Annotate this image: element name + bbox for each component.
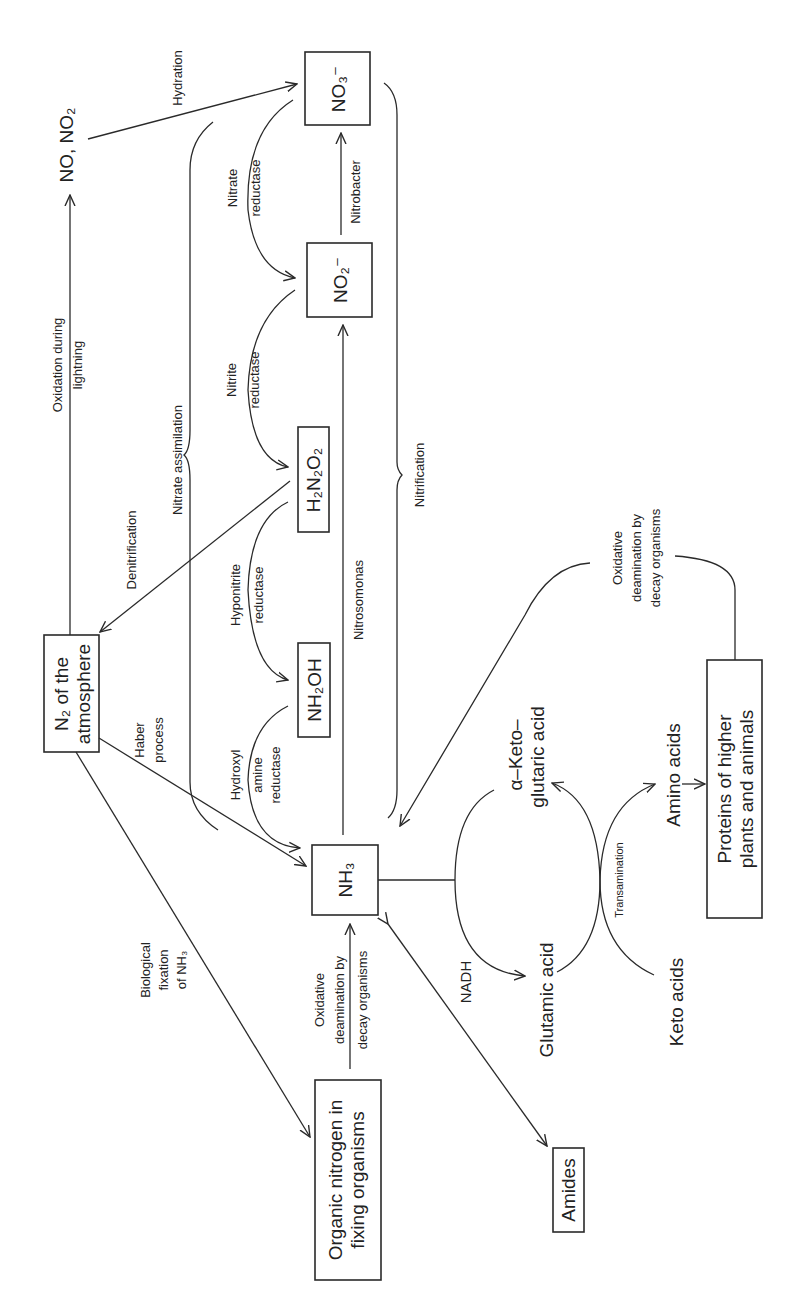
biofix-label-2: fixation <box>156 949 171 990</box>
nitrate-reductase-label-2: reductase <box>248 159 263 216</box>
hydroxyl-label-1: Hydroxyl <box>228 750 243 801</box>
nitrification-label: Nitrification <box>412 443 427 507</box>
amino-acids-label: Amino acids <box>663 723 684 827</box>
denitrification-label: Denitrification <box>124 511 139 590</box>
proteins-label-line1: Proteins of higher <box>714 714 735 864</box>
h2n2o2-label: H₂N₂O₂ <box>303 448 324 512</box>
oxdeam-lower-label-2: deamination by <box>332 955 347 1044</box>
organic-label-line1: Organic nitrogen in <box>325 1100 346 1261</box>
nh3-label: NH₃ <box>335 862 356 897</box>
biofix-label-1: Biological <box>138 942 153 998</box>
transamination-left-curve <box>552 783 600 972</box>
no3-label: NO₃⁻ <box>328 66 349 112</box>
transamination-label: Transamination <box>613 842 625 917</box>
nitrogen-cycle-diagram: NO₃⁻ NO₂⁻ H₂N₂O₂ NH₂OH NH₃ N₂ of the atm… <box>0 0 810 1302</box>
hyponitrite-label-2: reductase <box>251 566 266 623</box>
nitrification-brace <box>384 83 402 818</box>
nitrate-assimilation-brace <box>184 122 218 830</box>
organic-label-line2: fixing organisms <box>347 1111 368 1248</box>
aketo-label-line2: glutaric acid <box>527 706 548 807</box>
amides-nh3-arrow <box>388 924 547 1146</box>
hyponitrite-label-1: Hyponitrite <box>228 564 243 626</box>
haber-label-2: process <box>151 717 166 763</box>
oxdeam-upper-label-1: Oxidative <box>610 531 625 585</box>
nh2oh-label: NH₂OH <box>304 658 325 721</box>
keto-acids-label: Keto acids <box>666 958 687 1047</box>
no2-label: NO₂⁻ <box>330 257 351 303</box>
hydration-label: Hydration <box>170 50 185 106</box>
nitrite-reductase-label-2: reductase <box>247 351 262 408</box>
n2-label-line2: atmosphere <box>73 644 94 744</box>
nitrobacter-label: Nitrobacter <box>348 160 363 224</box>
hydration-arrow <box>88 84 297 139</box>
oxdeam-lower-label-3: decay organisms <box>355 950 370 1049</box>
biofix-label-3: of NH₃ <box>174 951 189 990</box>
oxdeam-upper-label-3: decay organisms <box>648 508 663 607</box>
glutamic-acid-label: Glutamic acid <box>536 942 557 1057</box>
amides-label: Amides <box>558 1158 579 1221</box>
nadh-label: NADH <box>457 961 474 1004</box>
biological-fixation-arrow <box>76 752 310 1137</box>
proteins-label-line2: plants and animals <box>736 710 757 868</box>
oxdeam-upper-label-2: deamination by <box>629 513 644 602</box>
nitrate-reductase-label-1: Nitrate <box>225 169 240 207</box>
nitrosomonas-label: Nitrosomonas <box>351 559 366 640</box>
nitrate-assimilation-label: Nitrate assimilation <box>170 405 185 515</box>
nitrite-reductase-label-1: Nitrite <box>224 363 239 397</box>
aketo-label-line1: α–Keto– <box>505 719 526 791</box>
hydroxyl-label-2: amine <box>250 757 265 792</box>
hydroxyl-label-3: reductase <box>268 746 283 803</box>
nadh-curve <box>455 790 525 976</box>
haber-label-1: Haber <box>132 722 147 758</box>
oxidative-deamination-upper-arrow-2 <box>400 563 590 826</box>
n2-label-line1: N₂ of the <box>51 657 72 731</box>
no-no2-label: NO, NO₂ <box>56 108 77 183</box>
oxidative-deamination-upper-arrow <box>675 556 735 660</box>
transamination-right-curve <box>600 784 655 975</box>
oxidation-label-line2: lightning <box>70 341 85 389</box>
oxidation-label-line1: Oxidation during <box>50 318 65 413</box>
oxdeam-lower-label-1: Oxidative <box>312 973 327 1027</box>
